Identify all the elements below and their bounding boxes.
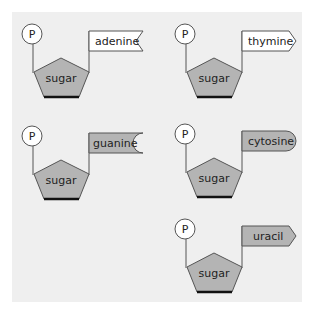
base-label: uracil bbox=[253, 230, 283, 243]
phosphate-label: P bbox=[182, 223, 189, 236]
base-label: cytosine bbox=[248, 135, 294, 148]
phosphate-label: P bbox=[29, 28, 36, 41]
sugar-label: sugar bbox=[46, 174, 77, 187]
phosphate-label: P bbox=[182, 128, 189, 141]
phosphate-label: P bbox=[29, 130, 36, 143]
phosphate-label: P bbox=[182, 28, 189, 41]
nucleotide-uracil: sugar P uracil bbox=[175, 219, 296, 292]
nucleotide-thymine: sugar P thymine bbox=[175, 24, 296, 97]
nucleotide-diagram: sugar P adenine sugar P thymine sugar P … bbox=[0, 0, 313, 314]
base-label: thymine bbox=[248, 35, 294, 48]
base-label: guanine bbox=[93, 137, 138, 150]
nucleotide-adenine: sugar P adenine bbox=[22, 24, 143, 97]
sugar-label: sugar bbox=[199, 72, 230, 85]
nucleotide-guanine: sugar P guanine bbox=[22, 126, 143, 199]
base-label: adenine bbox=[95, 35, 139, 48]
nucleotide-cytosine: sugar P cytosine bbox=[175, 124, 296, 197]
sugar-label: sugar bbox=[199, 267, 230, 280]
sugar-label: sugar bbox=[199, 172, 230, 185]
sugar-label: sugar bbox=[46, 72, 77, 85]
